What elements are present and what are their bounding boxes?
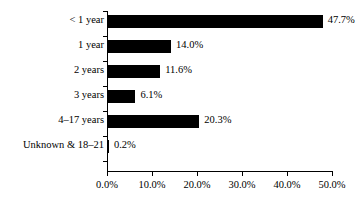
bar-chart: < 1 year 47.7% 1 year 14.0% 2 years 11.6… [0,0,359,199]
value-label: 20.3% [204,113,231,126]
y-axis-tick [103,86,107,87]
category-label: 4–17 years [0,113,104,126]
value-label: 0.2% [114,138,136,151]
y-axis-tick [103,36,107,37]
category-label: 2 years [0,63,104,76]
x-axis-tick-label: 50.0% [302,178,359,191]
y-axis-tick [103,161,107,162]
x-axis-line [107,171,333,172]
category-label: 3 years [0,88,104,101]
bar-row: Unknown & 18–21 0.2% [0,140,359,153]
bar-row: < 1 year 47.7% [0,15,359,28]
category-label: 1 year [0,38,104,51]
bar [108,115,199,128]
value-label: 11.6% [165,63,192,76]
bar-row: 2 years 11.6% [0,65,359,78]
bar [108,15,323,28]
y-axis-tick [103,111,107,112]
y-axis-tick [103,136,107,137]
value-label: 14.0% [176,38,203,51]
bar [108,90,135,103]
bar [108,40,171,53]
bar [108,65,160,78]
x-axis-tick [287,172,288,176]
x-axis-tick [242,172,243,176]
value-label: 6.1% [140,88,162,101]
y-axis-tick [103,11,107,12]
x-axis-tick [107,172,108,176]
x-axis-tick [332,172,333,176]
y-axis-tick [103,61,107,62]
category-label: Unknown & 18–21 [0,138,104,151]
bar-row: 1 year 14.0% [0,40,359,53]
value-label: 47.7% [328,13,355,26]
category-label: < 1 year [0,13,104,26]
bar-row: 3 years 6.1% [0,90,359,103]
x-axis-tick [197,172,198,176]
bar-row: 4–17 years 20.3% [0,115,359,128]
bar [108,140,109,153]
x-axis-tick [152,172,153,176]
